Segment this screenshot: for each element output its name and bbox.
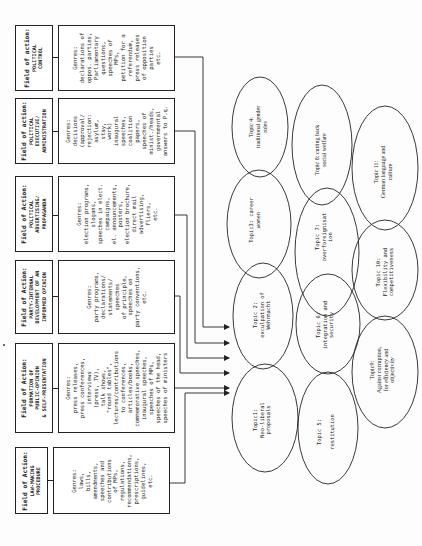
topic-label-3: Topic3: career women — [248, 197, 261, 242]
field-box-public-opinion: Field of Action: FORMATION OF PUBLIC-OPI… — [15, 343, 53, 433]
field-box-political-control: Field of action: POLITICAL CONTROL — [15, 25, 53, 91]
topic-label-9: Topic9: Against corruption, for efficien… — [369, 347, 396, 394]
field-text: Field of action: POLITICAL EXECUTIVE/ AD… — [21, 101, 47, 161]
genre-line: el. announcements, — [110, 184, 117, 245]
genre-line: questions, — [99, 33, 106, 84]
genre-line: etc. — [154, 33, 161, 84]
genre-line: statements/ — [106, 267, 113, 328]
topic-label-11: Topic 11: German language and culture — [373, 146, 393, 199]
scan-speck — [3, 344, 5, 346]
genre-line: press conferences, — [79, 349, 86, 426]
field-label: Field of action: — [24, 28, 31, 88]
topic-line: culture — [386, 146, 393, 199]
genres-label: Genres: — [85, 267, 92, 328]
genre-line: inaugural — [113, 106, 120, 157]
genre-box-law-making: Genres: laws, bills, amendments, speeche… — [53, 447, 170, 514]
topic-line: competitiveness — [388, 248, 395, 297]
genre-line: lectures/contributions — [113, 349, 120, 426]
topic-line: objectivity — [390, 347, 397, 394]
genre-line: referendum, — [127, 33, 134, 84]
genre-line: posters, — [117, 184, 124, 245]
genre-line: prescriptions, — [132, 454, 139, 508]
genre-line: guidelines, — [139, 454, 146, 508]
genre-line: coalition — [127, 106, 134, 157]
genre-line: direct mail — [130, 184, 137, 245]
genre-line: of MPs, — [112, 454, 119, 508]
topic-line: traditional gender — [255, 106, 262, 148]
topic-label-4: Topic 4: traditional gender roles — [248, 106, 268, 148]
field-label: Field of Action: — [21, 184, 28, 244]
genre-line: "round tables", — [106, 349, 113, 426]
topic-line: restitution — [329, 414, 336, 450]
field-name-line: DEVELOPMENT OF AN — [34, 267, 41, 327]
genres-label: Genres: — [72, 33, 79, 84]
topic-line: Topic 11: — [373, 146, 380, 199]
topic-line: ion — [327, 213, 334, 262]
field-name-line: POLITICAL — [31, 28, 38, 88]
genre-line: speeches of the head, — [154, 349, 161, 426]
field-name-line: POLITICAL — [27, 184, 34, 244]
genre-line: work) — [106, 106, 113, 157]
topic-line: Topic 7: — [314, 213, 321, 262]
genre-box-party-internal: Genres: party programs, declarations/ st… — [58, 260, 175, 334]
genre-line: etc. — [141, 267, 148, 328]
field-label: Field of Action: — [22, 451, 29, 511]
genre-text: Genres: declarations of oppos. parties, … — [72, 33, 162, 84]
genre-line: petition for a — [120, 33, 127, 84]
topic-line: proposals — [265, 402, 272, 438]
genres-label: Genres: — [75, 184, 82, 245]
genre-line: speeches of MPs, — [148, 349, 155, 426]
field-label: Field of Action: — [21, 267, 28, 327]
genre-text: Genres: election programs, slogans, spee… — [75, 184, 158, 245]
genre-line: bills, — [84, 454, 91, 508]
genre-line: oppos. parties, — [85, 33, 92, 84]
genre-line: commemorative speeches, — [134, 349, 141, 426]
genre-text: Genres: party programs, declarations/ st… — [85, 267, 147, 328]
genre-line: speeches — [113, 267, 120, 328]
field-name-line: PROPAGANDA — [41, 184, 48, 244]
topic-line: Topic 4: — [248, 106, 255, 148]
genre-text: Genres: decisions (approval/ rejection: … — [65, 106, 169, 157]
topic-line: for efficiency and — [383, 347, 390, 394]
topic-line: exculpation of — [259, 292, 266, 337]
genre-line: minist./heads, — [148, 106, 155, 157]
topic-line: women — [255, 197, 262, 242]
field-box-political-executive: Field of action: POLITICAL EXECUTIVE/ AD… — [15, 98, 53, 164]
field-box-law-making: Field of Action: LAW-MAKING PROCEDURE — [15, 447, 48, 514]
topic-line: security — [328, 301, 335, 350]
genre-line: inaugural speeches, — [141, 349, 148, 426]
field-name-line: ADVERTISING/ — [34, 184, 41, 244]
genre-line: press releases, — [72, 349, 79, 426]
field-name-line: LAW-MAKING — [28, 451, 35, 511]
field-text: Field of Action: LAW-MAKING PROCEDURE — [22, 451, 42, 511]
genre-line: interviews — [85, 349, 92, 426]
genre-line: slogans, — [89, 184, 96, 245]
genre-line: of opposition — [141, 33, 148, 84]
genre-line: regulations, — [118, 454, 125, 508]
genre-line: speeches of ministers — [161, 349, 168, 426]
topic-line — [323, 414, 330, 450]
genre-line: etc. — [146, 454, 153, 508]
genre-line: MPs, — [113, 33, 120, 84]
field-name-line: ADMINISTRATION — [41, 101, 48, 161]
genre-line: press releases — [134, 33, 141, 84]
topic-line: Against corruption, — [376, 347, 383, 394]
field-name-line: POLITICAL — [27, 101, 34, 161]
genre-line: recommendations, — [125, 454, 132, 508]
genre-line: (press, TV), — [92, 349, 99, 426]
topic-label-6: Topic 6: integration and security — [315, 301, 335, 350]
field-name-line: PROCEDURE — [35, 451, 42, 511]
genre-line: stay, — [99, 106, 106, 157]
topic-line: Topic 8: cutting back — [314, 125, 321, 176]
genre-line: laws, — [77, 454, 84, 508]
topic-line: roles — [261, 106, 268, 148]
field-name-line: & SELF-PRESENTATION — [41, 358, 48, 418]
field-text: Field of Action: PARTY-INTERNAL DEVELOPM… — [21, 267, 47, 327]
genre-line: party conventions, — [134, 267, 141, 328]
genres-label: Genres: — [65, 349, 72, 426]
genre-text: Genres: laws, bills, amendments, speeche… — [70, 454, 153, 508]
genre-line: speeches and — [98, 454, 105, 508]
genre-box-public-opinion: Genres: press releases, press conference… — [58, 343, 175, 433]
topic-line: Topic 5: — [316, 414, 323, 450]
field-name-line: FORMATION OF — [27, 358, 34, 418]
